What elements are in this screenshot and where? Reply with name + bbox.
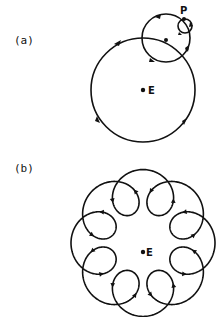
- epicyclic-loop-curve: [71, 170, 215, 317]
- planet-label: P: [180, 5, 187, 16]
- panel-b: (b) E: [14, 162, 215, 316]
- arrow-icon: [182, 272, 187, 277]
- planet-dot: [182, 17, 186, 21]
- earth-label: E: [148, 85, 155, 96]
- earth-dot: [141, 88, 145, 92]
- epicycle-center-dot: [164, 38, 168, 42]
- arrow-icon: [99, 210, 104, 215]
- earth-dot: [141, 250, 145, 254]
- arrow-icon: [171, 199, 176, 204]
- epicycle-diagram: (a) E P (b) E: [0, 0, 223, 317]
- arrow-icon: [110, 283, 115, 288]
- panel-a-label: (a): [14, 34, 34, 47]
- panel-b-label: (b): [14, 162, 34, 175]
- earth-label: E: [146, 247, 153, 258]
- panel-a: (a) E P: [14, 5, 195, 142]
- arrow-icon: [114, 40, 121, 46]
- loop-arrows: [89, 188, 197, 298]
